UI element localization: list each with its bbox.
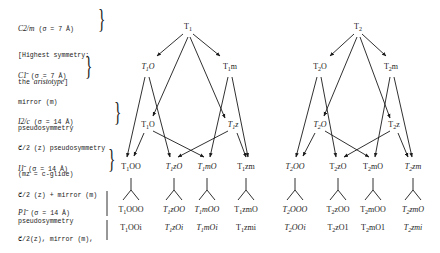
node-t1-zoi: T1zOi (165, 223, 184, 233)
node-t1-zo: T1zO (166, 162, 182, 172)
node-t1-m: T1m (223, 62, 237, 72)
node-t1-z: T1z (228, 120, 239, 130)
node-t2-ooo: T2OOO (283, 205, 308, 215)
node-t2-m: T2m (384, 62, 398, 72)
node-t2-zoi: T2zO1 (327, 223, 348, 233)
node-t1-oo: T1OO (121, 162, 140, 172)
node-t2-moo: T2mOO (360, 205, 386, 215)
node-t2-mo: T2mO (363, 162, 383, 172)
node-t1-o-2: T1O (141, 120, 155, 130)
node-t1-zmo: T1zmO (234, 205, 257, 215)
node-t2-zoo: T2zOO (327, 205, 350, 215)
node-t2-ooi: T2OOi (284, 223, 305, 233)
tree-edges (0, 0, 440, 253)
node-t2-zmo: T2zmO (402, 205, 424, 215)
node-t1-zm: T1zm (237, 162, 255, 172)
node-t2: T2 (354, 22, 362, 32)
node-t1-ooo: T1OOO (118, 205, 143, 215)
node-t2-zm: T2zm (405, 162, 421, 172)
node-t2-oo: T2OO (285, 162, 304, 172)
node-t2-o-2: T2O (313, 120, 326, 130)
node-t2-o: T2O (313, 62, 327, 72)
node-t2-z: T2z (388, 120, 399, 130)
node-t1-o: T1O (141, 62, 154, 72)
node-t1-zoo: T1zOO (163, 205, 185, 215)
node-t2-zo: T2zO (329, 162, 346, 172)
node-t1-zmi: T1zmi (236, 223, 256, 233)
node-t1-moo: T1mOO (195, 205, 220, 215)
node-t1-mo: T1mO (197, 162, 216, 172)
node-t2-moi: T2mO1 (361, 223, 385, 233)
node-t2-zmi: T2zmi (404, 223, 423, 233)
node-t1: T1 (184, 22, 192, 32)
node-t1-ooi: T1OOi (120, 223, 142, 233)
node-t1-moi: T1mOi (196, 223, 217, 233)
